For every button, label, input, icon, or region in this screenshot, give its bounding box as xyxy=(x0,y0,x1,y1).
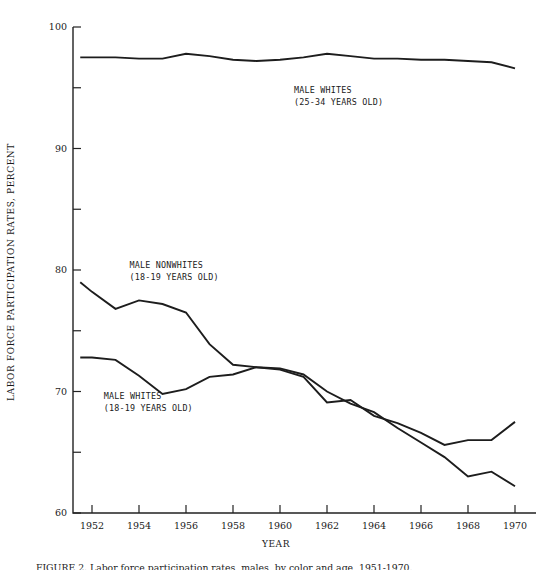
y-axis-ticks xyxy=(73,27,81,513)
x-tick-label: 1960 xyxy=(268,520,292,531)
series-annotation-0-line0: MALE WHITES xyxy=(294,85,352,95)
x-tick-label: 1968 xyxy=(456,520,480,531)
x-axis-tick-labels: 1952195419561958196019621964196619681970 xyxy=(80,520,527,531)
y-tick-label: 90 xyxy=(55,143,67,154)
x-tick-label: 1956 xyxy=(174,520,198,531)
x-tick-label: 1962 xyxy=(315,520,339,531)
y-tick-label: 60 xyxy=(55,507,67,518)
series-line-2 xyxy=(80,357,515,444)
series-annotation-1-line0: MALE NONWHITES xyxy=(130,260,203,270)
x-axis-ticks xyxy=(92,505,515,513)
series-annotation-2-line1: (18-19 YEARS OLD) xyxy=(104,403,193,413)
x-tick-label: 1958 xyxy=(221,520,245,531)
x-tick-label: 1954 xyxy=(127,520,151,531)
figure-caption: FIGURE 2. Labor force participation rate… xyxy=(36,562,412,570)
series-annotation-0-line1: (25-34 YEARS OLD) xyxy=(294,97,383,107)
y-axis-tick-labels: 60708090100 xyxy=(49,21,67,518)
data-series-group xyxy=(80,54,515,487)
y-tick-label: 70 xyxy=(55,386,67,397)
series-line-1 xyxy=(80,282,515,486)
x-tick-label: 1964 xyxy=(362,520,386,531)
figure-caption-row: FIGURE 2. Labor force participation rate… xyxy=(36,556,554,570)
y-tick-label: 100 xyxy=(49,21,67,32)
x-tick-label: 1952 xyxy=(80,520,104,531)
series-annotation-1-line1: (18-19 YEARS OLD) xyxy=(130,272,219,282)
y-tick-label: 80 xyxy=(55,264,67,275)
x-axis-title: YEAR xyxy=(261,539,290,549)
series-line-0 xyxy=(80,54,515,69)
series-annotations: MALE WHITES(25-34 YEARS OLD)MALE NONWHIT… xyxy=(104,85,383,413)
x-tick-label: 1970 xyxy=(503,520,527,531)
y-axis-title: LABOR FORCE PARTICIPATION RATES, PERCENT xyxy=(6,143,16,401)
series-annotation-2-line0: MALE WHITES xyxy=(104,391,162,401)
x-tick-label: 1966 xyxy=(409,520,433,531)
